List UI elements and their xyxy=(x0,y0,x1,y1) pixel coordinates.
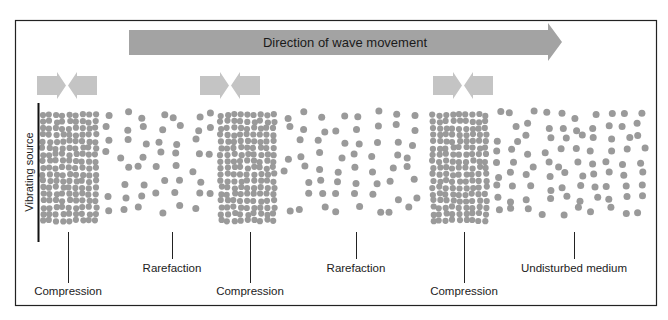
region-label-text: Compression xyxy=(216,285,284,297)
region-label-text: Rarefaction xyxy=(143,262,202,274)
region-label-text: Compression xyxy=(430,285,498,297)
region-label-text: Rarefaction xyxy=(327,262,386,274)
longitudinal-wave-diagram: Direction of wave movement Vibrating sou… xyxy=(0,0,668,320)
region-label-text: Undisturbed medium xyxy=(521,262,627,274)
vibrating-source-label: Vibrating source xyxy=(23,132,35,211)
region-label-text: Compression xyxy=(34,285,102,297)
wave-direction-label: Direction of wave movement xyxy=(263,35,427,50)
